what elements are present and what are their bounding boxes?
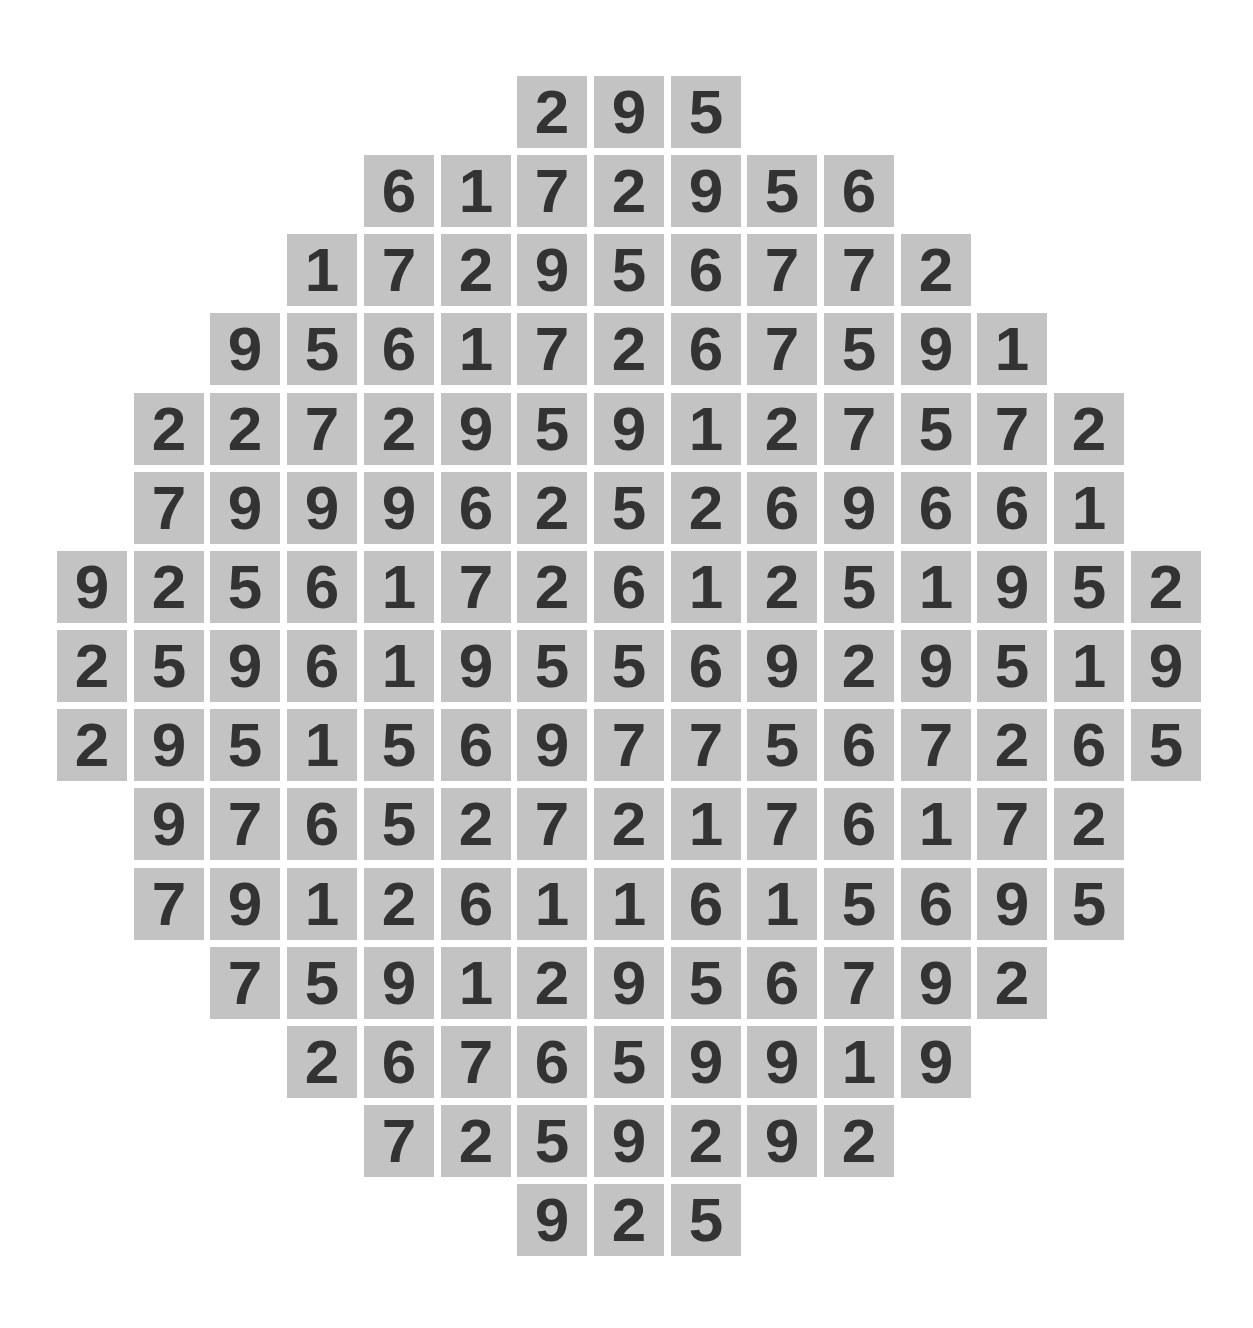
number-tile[interactable]: 6 — [671, 868, 741, 940]
number-tile[interactable]: 5 — [364, 788, 434, 860]
number-tile[interactable]: 9 — [671, 155, 741, 227]
number-tile[interactable]: 1 — [671, 551, 741, 623]
number-tile[interactable]: 6 — [824, 155, 894, 227]
number-tile[interactable]: 9 — [594, 947, 664, 1019]
number-tile[interactable]: 7 — [210, 788, 280, 860]
number-tile[interactable]: 1 — [364, 630, 434, 702]
number-tile[interactable]: 1 — [1054, 630, 1124, 702]
number-tile[interactable]: 5 — [134, 630, 204, 702]
number-tile[interactable]: 1 — [901, 788, 971, 860]
number-tile[interactable]: 7 — [287, 393, 357, 465]
number-tile[interactable]: 7 — [134, 868, 204, 940]
number-tile[interactable]: 5 — [517, 630, 587, 702]
number-tile[interactable]: 7 — [824, 393, 894, 465]
number-tile[interactable]: 9 — [441, 630, 511, 702]
number-tile[interactable]: 5 — [287, 947, 357, 1019]
number-tile[interactable]: 5 — [747, 155, 817, 227]
number-tile[interactable]: 5 — [1131, 709, 1201, 781]
number-tile[interactable]: 6 — [287, 788, 357, 860]
number-tile[interactable]: 2 — [1054, 393, 1124, 465]
number-tile[interactable]: 6 — [441, 709, 511, 781]
number-tile[interactable]: 1 — [441, 947, 511, 1019]
number-tile[interactable]: 7 — [441, 1026, 511, 1098]
number-tile[interactable]: 9 — [901, 1026, 971, 1098]
number-tile[interactable]: 2 — [747, 393, 817, 465]
number-tile[interactable]: 9 — [824, 472, 894, 544]
number-tile[interactable]: 6 — [441, 868, 511, 940]
number-tile[interactable]: 2 — [824, 1105, 894, 1177]
number-tile[interactable]: 1 — [901, 551, 971, 623]
number-tile[interactable]: 9 — [210, 472, 280, 544]
number-tile[interactable]: 7 — [441, 551, 511, 623]
number-tile[interactable]: 5 — [287, 313, 357, 385]
number-tile[interactable]: 6 — [594, 551, 664, 623]
number-tile[interactable]: 5 — [364, 709, 434, 781]
number-tile[interactable]: 5 — [594, 630, 664, 702]
number-tile[interactable]: 2 — [57, 630, 127, 702]
number-tile[interactable]: 9 — [517, 1184, 587, 1256]
number-tile[interactable]: 6 — [287, 630, 357, 702]
number-tile[interactable]: 6 — [747, 947, 817, 1019]
number-tile[interactable]: 6 — [287, 551, 357, 623]
number-tile[interactable]: 9 — [747, 630, 817, 702]
number-tile[interactable]: 1 — [287, 868, 357, 940]
number-tile[interactable]: 7 — [747, 234, 817, 306]
number-tile[interactable]: 2 — [517, 472, 587, 544]
number-tile[interactable]: 2 — [134, 393, 204, 465]
number-tile[interactable]: 6 — [1054, 709, 1124, 781]
number-tile[interactable]: 9 — [901, 313, 971, 385]
number-tile[interactable]: 2 — [134, 551, 204, 623]
number-tile[interactable]: 9 — [517, 234, 587, 306]
number-tile[interactable]: 9 — [441, 393, 511, 465]
number-tile[interactable]: 6 — [364, 313, 434, 385]
number-tile[interactable]: 1 — [517, 868, 587, 940]
number-tile[interactable]: 6 — [977, 472, 1047, 544]
number-tile[interactable]: 7 — [901, 709, 971, 781]
number-tile[interactable]: 2 — [594, 1184, 664, 1256]
number-tile[interactable]: 9 — [57, 551, 127, 623]
number-tile[interactable]: 5 — [1054, 551, 1124, 623]
number-tile[interactable]: 7 — [517, 788, 587, 860]
number-tile[interactable]: 7 — [671, 709, 741, 781]
number-tile[interactable]: 2 — [671, 1105, 741, 1177]
number-tile[interactable]: 6 — [824, 788, 894, 860]
number-tile[interactable]: 5 — [1054, 868, 1124, 940]
number-tile[interactable]: 9 — [134, 709, 204, 781]
number-tile[interactable]: 6 — [824, 709, 894, 781]
number-tile[interactable]: 7 — [517, 313, 587, 385]
number-tile[interactable]: 7 — [594, 709, 664, 781]
number-tile[interactable]: 5 — [671, 76, 741, 148]
number-tile[interactable]: 2 — [364, 393, 434, 465]
number-tile[interactable]: 9 — [671, 1026, 741, 1098]
number-tile[interactable]: 2 — [441, 234, 511, 306]
number-tile[interactable]: 2 — [517, 551, 587, 623]
number-tile[interactable]: 5 — [517, 1105, 587, 1177]
number-tile[interactable]: 7 — [977, 788, 1047, 860]
number-tile[interactable]: 2 — [594, 155, 664, 227]
number-tile[interactable]: 2 — [977, 947, 1047, 1019]
number-tile[interactable]: 1 — [594, 868, 664, 940]
number-tile[interactable]: 9 — [287, 472, 357, 544]
number-tile[interactable]: 7 — [747, 788, 817, 860]
number-tile[interactable]: 7 — [210, 947, 280, 1019]
number-tile[interactable]: 9 — [210, 630, 280, 702]
number-tile[interactable]: 9 — [747, 1105, 817, 1177]
number-tile[interactable]: 5 — [594, 472, 664, 544]
number-tile[interactable]: 9 — [977, 551, 1047, 623]
number-tile[interactable]: 9 — [364, 947, 434, 1019]
number-tile[interactable]: 2 — [1131, 551, 1201, 623]
number-tile[interactable]: 6 — [671, 234, 741, 306]
number-tile[interactable]: 2 — [364, 868, 434, 940]
number-tile[interactable]: 9 — [901, 947, 971, 1019]
number-tile[interactable]: 9 — [977, 868, 1047, 940]
number-tile[interactable]: 5 — [747, 709, 817, 781]
number-tile[interactable]: 2 — [977, 709, 1047, 781]
number-tile[interactable]: 2 — [57, 709, 127, 781]
number-tile[interactable]: 9 — [594, 1105, 664, 1177]
number-tile[interactable]: 6 — [671, 313, 741, 385]
number-tile[interactable]: 5 — [671, 947, 741, 1019]
number-tile[interactable]: 1 — [977, 313, 1047, 385]
number-tile[interactable]: 1 — [364, 551, 434, 623]
number-tile[interactable]: 5 — [901, 393, 971, 465]
number-tile[interactable]: 6 — [901, 472, 971, 544]
